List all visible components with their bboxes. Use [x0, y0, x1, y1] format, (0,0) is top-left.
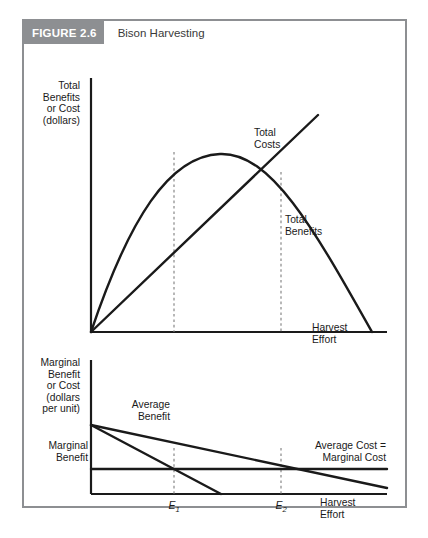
average-benefit-label: Average Benefit [96, 399, 170, 422]
total-costs-label: Total Costs [254, 127, 324, 150]
figure-frame: FIGURE 2.6 Bison Harvesting [22, 19, 407, 508]
bottom-panel-graphics [91, 360, 387, 494]
x-tick-e2-subscript: 2 [282, 505, 286, 514]
figure-root: FIGURE 2.6 Bison Harvesting [0, 0, 428, 538]
top-y-axis-label: Total Benefits or Cost (dollars) [18, 80, 80, 126]
bottom-y-axis-label: Marginal Benefit or Cost (dollars per un… [18, 357, 80, 415]
top-panel-graphics [91, 78, 387, 332]
average-cost-marginal-cost-label: Average Cost = Marginal Cost [276, 440, 386, 463]
figure-number-badge: FIGURE 2.6 [24, 21, 104, 44]
x-tick-e1: E1 [160, 499, 188, 514]
marginal-benefit-label: Marginal Benefit [22, 440, 88, 463]
total-benefits-label: Total Benefits [285, 214, 363, 237]
top-x-axis-label: Harvest Effort [312, 322, 390, 345]
bottom-x-axis-label: Harvest Effort [320, 497, 398, 520]
chart-graphics [24, 44, 405, 506]
x-tick-e1-subscript: 1 [175, 505, 179, 514]
total-benefits-curve [91, 154, 372, 332]
x-tick-e2: E2 [267, 499, 295, 514]
figure-header: FIGURE 2.6 Bison Harvesting [24, 21, 405, 44]
chart-area: Total Benefits or Cost (dollars) Total C… [24, 44, 405, 506]
figure-title: Bison Harvesting [104, 21, 205, 44]
marginal-benefit-line [91, 425, 221, 494]
